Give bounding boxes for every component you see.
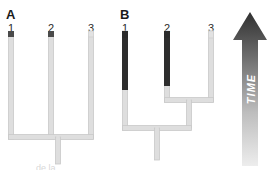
panel-b-inner-stem (187, 100, 192, 128)
panel-b-joint-1 (123, 126, 126, 129)
panel-b-dark-branch-2 (164, 31, 170, 86)
panel-b-branch-3 (209, 31, 214, 102)
panel-b-joint-inner (187, 98, 190, 102)
caption-fragment: de la (36, 163, 56, 170)
panel-b-joint-3 (209, 98, 212, 101)
panel-b-joint-clade (187, 126, 190, 129)
panel-b-dark-branch-1 (122, 31, 128, 90)
time-arrow-graphic (231, 10, 271, 168)
panel-b-tip-markers (122, 31, 214, 38)
panel-b-joint-root (155, 126, 158, 130)
panel-b-tip-marker-1 (122, 31, 128, 38)
time-axis-arrow: TIME (231, 10, 271, 168)
panel-b-joint-2 (165, 98, 168, 101)
time-arrow-shape (233, 12, 267, 166)
figure-canvas: A 1 2 3 B 1 2 3 (0, 0, 273, 170)
panel-b-root-stem (155, 128, 160, 160)
panel-b-tip-marker-2 (164, 31, 170, 38)
panel-b-tip-marker-3 (209, 31, 214, 38)
panel-b-dark-segments (122, 31, 170, 90)
